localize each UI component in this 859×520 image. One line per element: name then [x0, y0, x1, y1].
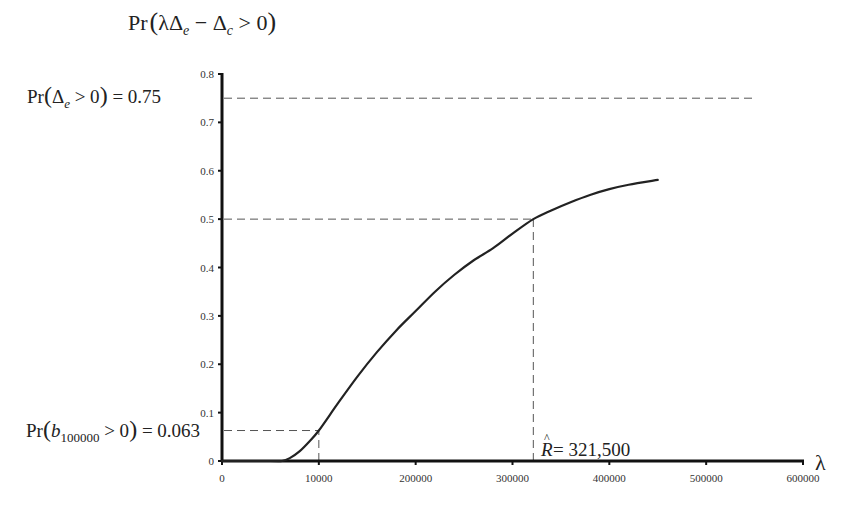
- x-tick-label: 10000: [305, 472, 333, 484]
- y-axis-title: Pr(λΔe − Δc > 0): [128, 7, 276, 38]
- x-tick-label: 300000: [496, 472, 530, 484]
- chart: Pr(λΔe − Δc > 0) 00.10.20.30.40.50.60.70…: [0, 0, 859, 520]
- y-tick-label: 0.1: [200, 407, 214, 419]
- y-tick-label: 0.5: [200, 213, 214, 225]
- y-tick-label: 0.2: [200, 358, 214, 370]
- probability-curve: [222, 180, 658, 461]
- x-tick-label: 0: [219, 472, 225, 484]
- x-tick-label: 200000: [399, 472, 433, 484]
- x-axis-ticks: 010000200000300000400000500000600000: [219, 461, 820, 484]
- svg-text:^: ^: [544, 431, 550, 445]
- y-tick-label: 0: [209, 455, 215, 467]
- annotation-pr-delta-e: Pr(Δe > 0) = 0.75: [27, 82, 161, 111]
- y-tick-label: 0.6: [200, 165, 214, 177]
- y-tick-label: 0.3: [200, 310, 214, 322]
- y-tick-label: 0.4: [200, 262, 214, 274]
- reference-lines: [224, 98, 755, 461]
- y-tick-label: 0.8: [200, 68, 214, 80]
- annotation-pr-b100000: Pr(b100000 > 0) = 0.063: [26, 416, 200, 445]
- y-tick-label: 0.7: [200, 116, 214, 128]
- x-axis-title: λ: [815, 450, 826, 475]
- y-axis-ticks: 00.10.20.30.40.50.60.70.8: [200, 68, 222, 467]
- svg-text:Pr(λΔe − Δc > 0): Pr(λΔe − Δc > 0): [128, 7, 276, 38]
- svg-text:= 321,500: = 321,500: [553, 439, 630, 460]
- annotation-r-hat: R ^ = 321,500: [540, 431, 630, 460]
- axes: [221, 73, 804, 462]
- x-tick-label: 400000: [593, 472, 627, 484]
- x-tick-label: 500000: [690, 472, 724, 484]
